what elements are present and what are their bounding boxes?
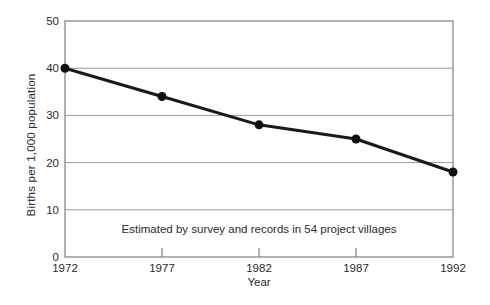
data-point xyxy=(61,64,70,73)
data-points xyxy=(61,64,458,177)
y-tick-label: 40 xyxy=(46,62,59,74)
x-axis-ticks xyxy=(162,248,356,257)
y-tick-label: 30 xyxy=(46,109,59,121)
data-point xyxy=(158,92,167,101)
birth-rate-chart: 01020304050 19721977198219871992 Births … xyxy=(0,0,490,305)
data-point xyxy=(352,135,361,144)
x-tick-label: 1977 xyxy=(149,262,175,274)
y-tick-label: 50 xyxy=(46,15,59,27)
y-axis-title: Births per 1,000 population xyxy=(25,74,37,217)
y-tick-label: 10 xyxy=(46,204,59,216)
data-point xyxy=(255,120,264,129)
chart-note: Estimated by survey and records in 54 pr… xyxy=(65,223,453,235)
plot-area: 01020304050 19721977198219871992 xyxy=(0,0,490,305)
x-tick-label: 1972 xyxy=(52,262,78,274)
data-point xyxy=(449,168,458,177)
series-line xyxy=(65,68,453,172)
gridlines xyxy=(65,68,453,210)
x-axis-title: Year xyxy=(65,276,453,288)
birth-rate-line xyxy=(65,68,453,172)
plot-frame xyxy=(65,21,453,257)
x-tick-label: 1992 xyxy=(440,262,466,274)
y-tick-label: 20 xyxy=(46,157,59,169)
x-tick-label: 1987 xyxy=(343,262,369,274)
x-tick-label: 1982 xyxy=(246,262,272,274)
y-tick-labels: 01020304050 xyxy=(46,15,59,263)
x-tick-labels: 19721977198219871992 xyxy=(52,262,466,274)
